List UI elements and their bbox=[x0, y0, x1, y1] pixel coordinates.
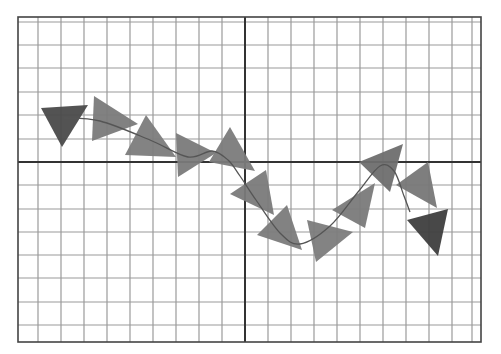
trajectory-diagram bbox=[0, 0, 501, 354]
diagram-canvas bbox=[0, 0, 501, 354]
